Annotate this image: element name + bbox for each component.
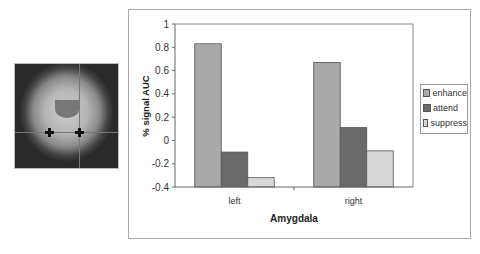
y-tick-label: -0.4	[152, 182, 170, 193]
legend-swatch	[423, 119, 428, 127]
chart-legend: enhance attend suppress	[420, 84, 468, 134]
y-tick-label: 0.6	[155, 65, 169, 76]
x-tick-label: right	[345, 196, 363, 206]
y-tick-label: 0.2	[155, 112, 169, 123]
legend-item-suppress: suppress	[421, 115, 467, 130]
y-tick-label: 0.4	[155, 88, 169, 99]
y-tick-label: -0.2	[152, 158, 170, 169]
x-tick-label: left	[228, 196, 241, 206]
legend-swatch	[423, 89, 430, 97]
bar-suppress-right	[367, 151, 394, 187]
legend-item-enhance: enhance	[421, 85, 467, 100]
legend-label: attend	[433, 103, 458, 113]
legend-label: enhance	[432, 88, 467, 98]
legend-item-attend: attend	[421, 100, 467, 115]
y-axis-title: % signal AUC	[140, 75, 151, 137]
y-tick-label: 1	[163, 19, 169, 30]
legend-swatch	[423, 104, 431, 112]
y-tick-label: 0	[163, 135, 169, 146]
bar-enhance-left	[195, 44, 222, 187]
x-axis-title: Amygdala	[270, 213, 318, 224]
legend-label: suppress	[430, 118, 467, 128]
bar-attend-right	[340, 128, 367, 187]
bar-chart: leftright-0.4-0.200.20.40.60.81Amygdala%…	[0, 0, 480, 254]
bar-attend-left	[221, 152, 248, 187]
bar-enhance-right	[314, 62, 341, 187]
y-tick-label: 0.8	[155, 42, 169, 53]
bar-suppress-left	[248, 178, 275, 187]
